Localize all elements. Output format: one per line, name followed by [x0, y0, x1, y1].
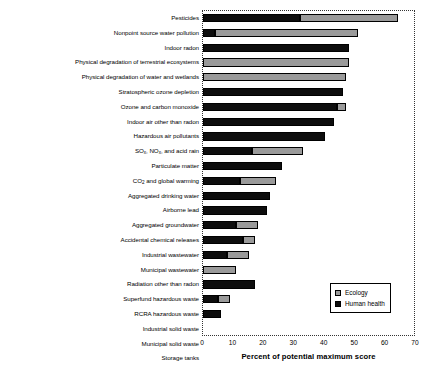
bar-row: Physical degradation of water and wetlan… [203, 70, 414, 85]
bar-row-label: Aggregated groundwater [132, 218, 199, 233]
legend-item-ecology: Ecology [335, 287, 385, 298]
bar-row: Indoor radon [203, 41, 414, 56]
bar-stack [203, 221, 258, 229]
bar-row-label: Industrial wastewater [142, 248, 199, 263]
bar-stack [203, 177, 276, 185]
bar-stack [203, 88, 343, 96]
bar-segment-human-health [203, 221, 236, 229]
bar-segment-human-health [203, 88, 343, 96]
bar-stack [203, 44, 349, 52]
bar-segment-ecology [243, 236, 255, 244]
bar-segment-human-health [203, 251, 227, 259]
bar-row-label: Particulate matter [151, 159, 199, 174]
bar-stack [203, 132, 325, 140]
bar-stack [203, 58, 349, 66]
bar-segment-ecology [227, 251, 248, 259]
bar-row-label: Municipal solid waste [142, 337, 199, 352]
bar-stack [203, 118, 334, 126]
bar-row-label: Physical degradation of terrestrial ecos… [75, 55, 199, 70]
bar-row-label: Stratospheric ozone depletion [119, 85, 199, 100]
bar-segment-human-health [203, 147, 252, 155]
bar-segment-ecology [240, 177, 277, 185]
bar-row-label: Radiation other than radon [127, 277, 199, 292]
legend-item-human-health: Human health [335, 298, 385, 309]
bar-row-label: Nonpoint source water pollution [114, 26, 199, 41]
bar-stack [203, 162, 282, 170]
legend-swatch-human-health-icon [335, 301, 341, 307]
bar-segment-human-health [203, 236, 243, 244]
bar-segment-ecology [252, 147, 304, 155]
bar-row: Accidental chemical releases [203, 233, 414, 248]
bar-row-label: Hazardous air pollutants [133, 129, 199, 144]
bar-row-label: Airborne lead [163, 203, 199, 218]
bar-segment-human-health [203, 206, 267, 214]
x-axis-ticks: 010203040506070 [202, 336, 415, 350]
bar-row: Industrial wastewater [203, 248, 414, 263]
bar-segment-human-health [203, 192, 270, 200]
legend-swatch-ecology-icon [335, 290, 341, 296]
bar-stack [203, 14, 398, 22]
bar-stack [203, 73, 346, 81]
bar-stack [203, 251, 249, 259]
bar-row-label: Physical degradation of water and wetlan… [82, 70, 199, 85]
bar-row-label: Pesticides [171, 11, 199, 26]
x-axis-title: Percent of potential maximum score [202, 352, 415, 361]
bar-row: Aggregated drinking water [203, 189, 414, 204]
bar-segment-human-health [203, 310, 221, 318]
chart-legend: Ecology Human health [330, 283, 391, 313]
legend-label-ecology: Ecology [345, 289, 368, 296]
x-axis-tick-label: 10 [229, 339, 236, 346]
bar-stack [203, 192, 270, 200]
bar-segment-human-health [203, 103, 337, 111]
bar-row: Aggregated groundwater [203, 218, 414, 233]
bar-row: Ozone and carbon monoxide [203, 100, 414, 115]
bar-segment-human-health [203, 132, 325, 140]
legend-label-human-health: Human health [345, 300, 385, 307]
bar-stack [203, 236, 255, 244]
bar-segment-ecology [236, 221, 257, 229]
bar-row-label: Aggregated drinking water [128, 189, 199, 204]
bar-row: Industrial solid waste [203, 322, 414, 337]
x-axis-tick-label: 30 [290, 339, 297, 346]
bar-stack [203, 310, 221, 318]
bar-row: CO2 and global warming [203, 174, 414, 189]
bar-row-label: Indoor radon [165, 41, 200, 56]
x-axis-tick-label: 20 [259, 339, 266, 346]
bar-segment-human-health [203, 44, 349, 52]
bar-segment-human-health [203, 118, 334, 126]
bar-row: Indoor air other than radon [203, 115, 414, 130]
bar-segment-human-health [203, 177, 240, 185]
bar-segment-ecology [300, 14, 397, 22]
x-axis-tick-label: 40 [320, 339, 327, 346]
bar-row: Airborne lead [203, 203, 414, 218]
bar-row-label: SOx, NOx, and acid rain [135, 144, 199, 160]
bar-row: Stratospheric ozone depletion [203, 85, 414, 100]
stacked-bar-chart: PesticidesNonpoint source water pollutio… [0, 0, 426, 379]
bar-stack [203, 295, 230, 303]
bar-segment-ecology [203, 73, 346, 81]
bar-segment-ecology [203, 266, 236, 274]
bar-row: Municipal wastewater [203, 263, 414, 278]
bar-segment-human-health [203, 29, 215, 37]
bar-segment-human-health [203, 162, 282, 170]
x-axis-tick-label: 70 [411, 339, 418, 346]
bar-segment-ecology [215, 29, 358, 37]
bar-stack [203, 103, 346, 111]
bar-row-label: Storage tanks [161, 351, 199, 366]
bar-segment-human-health [203, 280, 255, 288]
bar-row-label: RCRA hazardous waste [134, 307, 199, 322]
bar-row: Physical degradation of terrestrial ecos… [203, 55, 414, 70]
bar-stack [203, 147, 303, 155]
bar-row-label: Industrial solid waste [143, 322, 199, 337]
bar-stack [203, 206, 267, 214]
bar-row: Particulate matter [203, 159, 414, 174]
x-axis-tick-label: 50 [350, 339, 357, 346]
bar-stack [203, 266, 236, 274]
bar-segment-human-health [203, 295, 218, 303]
x-axis-tick-label: 60 [381, 339, 388, 346]
bar-segment-ecology [337, 103, 346, 111]
x-axis-tick-label: 0 [200, 339, 204, 346]
bar-row: Pesticides [203, 11, 414, 26]
bar-row: SOx, NOx, and acid rain [203, 144, 414, 159]
bar-row: Nonpoint source water pollution [203, 26, 414, 41]
